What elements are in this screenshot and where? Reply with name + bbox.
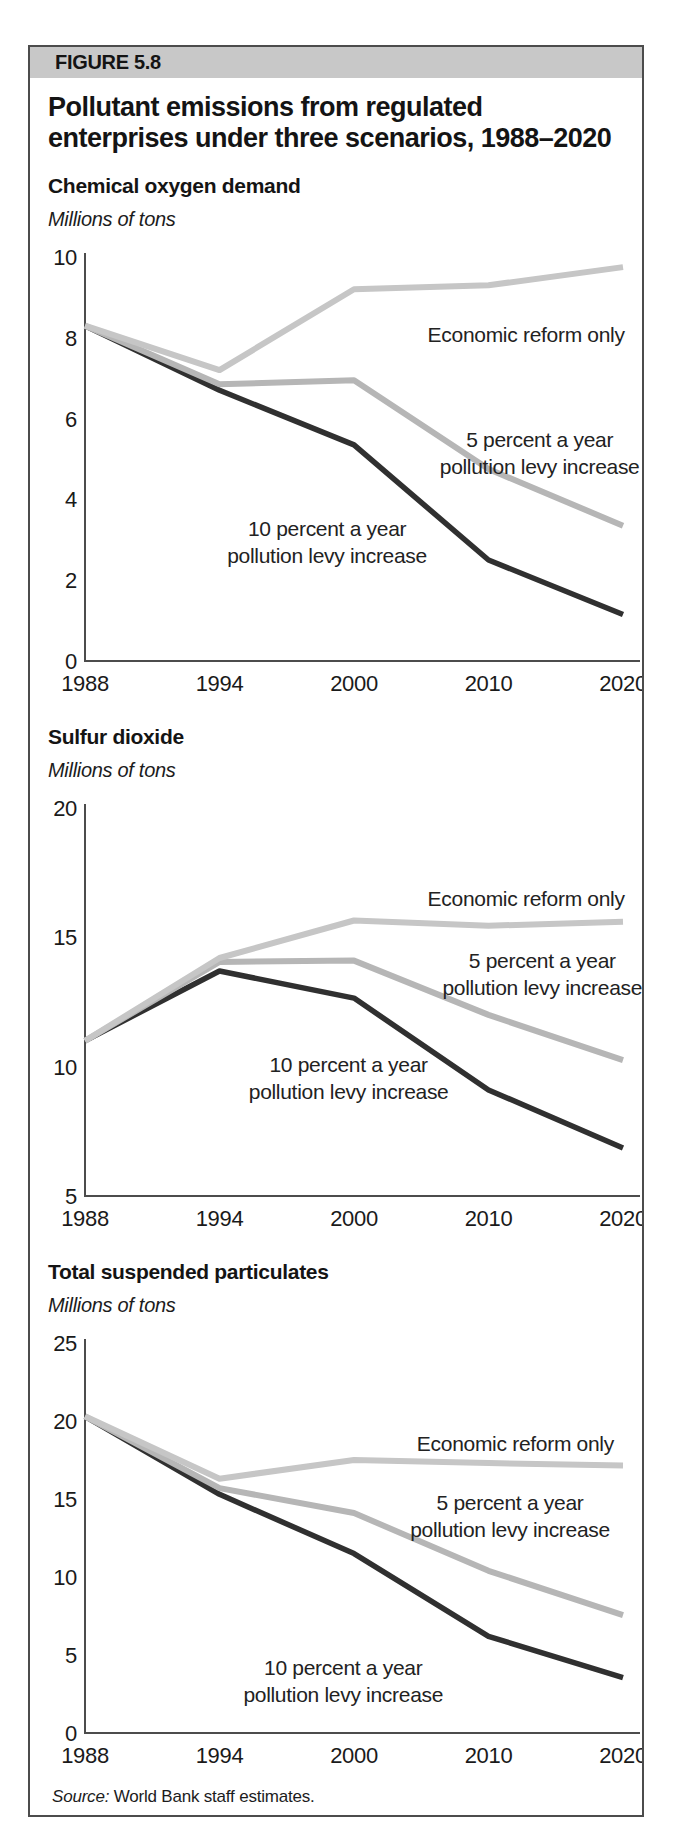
y-tick-label: 2 (65, 568, 77, 593)
x-tick-label: 2000 (330, 1743, 378, 1768)
x-tick-label: 2020 (599, 1743, 642, 1768)
x-tick-label: 1994 (196, 1206, 244, 1231)
x-tick-label: 2000 (330, 671, 378, 696)
series-label-ten: 10 percent a yearpollution levy increase (227, 517, 427, 567)
source-text: World Bank staff estimates. (109, 1787, 314, 1806)
series-label-five: 5 percent a yearpollution levy increase (410, 1491, 610, 1541)
chart-heading-cod: Chemical oxygen demand (48, 174, 642, 198)
series-label-reform: Economic reform only (428, 887, 626, 910)
series-label-reform: Economic reform only (417, 1432, 615, 1455)
source-prefix: Source: (52, 1787, 109, 1806)
y-tick-label: 15 (53, 1487, 77, 1512)
x-tick-label: 1988 (61, 671, 109, 696)
y-tick-label: 10 (53, 1565, 77, 1590)
chart-unit-label-so2: Millions of tons (48, 759, 642, 782)
y-tick-label: 8 (65, 326, 77, 351)
chart-heading-so2: Sulfur dioxide (48, 725, 642, 749)
cod-chart: 024681019881994200020102020Economic refo… (30, 243, 642, 705)
series-line-reform (85, 267, 623, 370)
x-tick-label: 2010 (465, 1743, 513, 1768)
x-tick-label: 2010 (465, 671, 513, 696)
y-tick-label: 20 (53, 1409, 77, 1434)
y-tick-label: 25 (53, 1331, 77, 1356)
series-label-ten: 10 percent a yearpollution levy increase (249, 1053, 449, 1103)
series-line-five (85, 326, 623, 526)
y-tick-label: 6 (65, 407, 77, 432)
x-tick-label: 2000 (330, 1206, 378, 1231)
x-tick-label: 2020 (599, 671, 642, 696)
figure-label: FIGURE 5.8 (55, 51, 161, 73)
series-label-five: 5 percent a yearpollution levy increase (442, 949, 642, 999)
y-tick-label: 20 (53, 796, 77, 821)
series-label-reform: Economic reform only (428, 323, 626, 346)
x-tick-label: 2020 (599, 1206, 642, 1231)
source-note: Source: World Bank staff estimates. (52, 1787, 642, 1815)
series-label-ten: 10 percent a yearpollution levy increase (243, 1656, 443, 1706)
x-tick-label: 1994 (196, 1743, 244, 1768)
tsp-chart: 051015202519881994200020102020Economic r… (30, 1329, 642, 1777)
chart-section-tsp: Total suspended particulates Millions of… (30, 1260, 642, 1777)
y-tick-label: 10 (53, 1055, 77, 1080)
so2-chart: 510152019881994200020102020Economic refo… (30, 794, 642, 1240)
y-tick-label: 5 (65, 1643, 77, 1668)
figure-box: FIGURE 5.8 Pollutant emissions from regu… (28, 45, 644, 1817)
chart-unit-label-cod: Millions of tons (48, 208, 642, 231)
chart-section-cod: Chemical oxygen demand Millions of tons … (30, 174, 642, 705)
y-tick-label: 10 (53, 245, 77, 270)
chart-heading-tsp: Total suspended particulates (48, 1260, 642, 1284)
series-label-five: 5 percent a yearpollution levy increase (440, 428, 640, 478)
x-tick-label: 1994 (196, 671, 244, 696)
figure-title: Pollutant emissions from regulated enter… (48, 92, 613, 154)
figure-label-band: FIGURE 5.8 (30, 47, 642, 78)
x-tick-label: 1988 (61, 1743, 109, 1768)
y-tick-label: 4 (65, 487, 77, 512)
y-tick-label: 15 (53, 925, 77, 950)
chart-section-so2: Sulfur dioxide Millions of tons 51015201… (30, 725, 642, 1240)
chart-unit-label-tsp: Millions of tons (48, 1294, 642, 1317)
x-tick-label: 1988 (61, 1206, 109, 1231)
x-tick-label: 2010 (465, 1206, 513, 1231)
